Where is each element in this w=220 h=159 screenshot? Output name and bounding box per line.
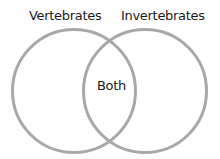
invertebrates-label: Invertebrates	[121, 8, 205, 23]
both-label: Both	[97, 78, 126, 93]
vertebrates-label: Vertebrates	[29, 8, 101, 23]
